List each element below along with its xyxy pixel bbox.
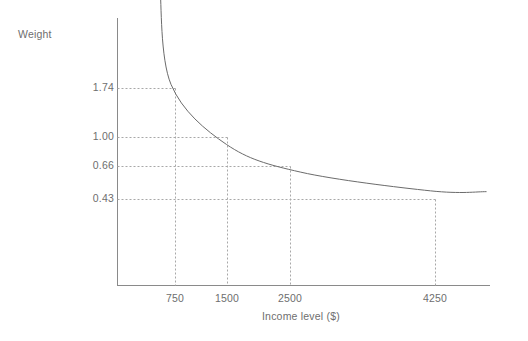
chart-canvas: Weight Income level ($) 1.74 1.00 0.66 0…: [0, 0, 528, 341]
weight-curve: [160, 0, 486, 192]
chart-plot-area: [0, 0, 528, 341]
